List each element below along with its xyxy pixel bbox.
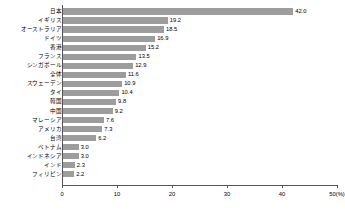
x-tick-label: 30 bbox=[224, 190, 230, 198]
bar-value-label: 18.5 bbox=[164, 25, 177, 34]
bar-row: 香港15.2 bbox=[0, 43, 339, 52]
bar bbox=[62, 126, 102, 132]
bar-track: 3.0 bbox=[62, 143, 339, 152]
bar-row: タイ10.4 bbox=[0, 88, 339, 97]
bar-track: 12.9 bbox=[62, 61, 339, 70]
bar-row: ドイツ16.9 bbox=[0, 34, 339, 43]
bar-row: 中国9.2 bbox=[0, 107, 339, 116]
bar bbox=[62, 153, 79, 159]
bar-value-label: 11.6 bbox=[126, 70, 139, 79]
bar-track: 10.9 bbox=[62, 79, 339, 88]
bar-row: シンガポール12.9 bbox=[0, 61, 339, 70]
category-label: 日本 bbox=[2, 7, 62, 16]
bar bbox=[62, 8, 293, 14]
bar-value-label: 6.2 bbox=[96, 134, 106, 143]
bar-track: 18.5 bbox=[62, 25, 339, 34]
bar bbox=[62, 135, 96, 141]
bar-value-label: 2.2 bbox=[74, 170, 84, 179]
category-label: インドネシア bbox=[2, 152, 62, 161]
category-label: シンガポール bbox=[2, 61, 62, 70]
bar-value-label: 42.0 bbox=[293, 7, 306, 16]
bar-track: 9.2 bbox=[62, 107, 339, 116]
bar-value-label: 15.2 bbox=[146, 43, 159, 52]
bar-value-label: 10.4 bbox=[119, 88, 132, 97]
bar-value-label: 9.8 bbox=[116, 97, 126, 106]
bar-track: 10.4 bbox=[62, 88, 339, 97]
category-label: アメリカ bbox=[2, 125, 62, 134]
bar-value-label: 7.3 bbox=[102, 125, 112, 134]
x-tick bbox=[282, 185, 283, 188]
x-tick-label: 20 bbox=[169, 190, 175, 198]
bar bbox=[62, 26, 164, 32]
category-label: 中国 bbox=[2, 107, 62, 116]
x-tick-label: 40 bbox=[279, 190, 285, 198]
bar-value-label: 9.2 bbox=[113, 107, 123, 116]
bar bbox=[62, 99, 116, 105]
bar-track: 42.0 bbox=[62, 7, 339, 16]
y-axis-line bbox=[62, 5, 63, 185]
x-tick-label: 50(%) bbox=[329, 190, 344, 198]
bar bbox=[62, 144, 79, 150]
bar-row: 韓国9.8 bbox=[0, 97, 339, 106]
bar-value-label: 19.2 bbox=[168, 16, 181, 25]
x-tick-label: 0 bbox=[60, 190, 63, 198]
bar bbox=[62, 63, 133, 69]
bar bbox=[62, 171, 74, 177]
bar-track: 9.8 bbox=[62, 97, 339, 106]
bar-row: インドネシア3.0 bbox=[0, 152, 339, 161]
category-label: 全体 bbox=[2, 70, 62, 79]
bar bbox=[62, 72, 126, 78]
category-label: 台湾 bbox=[2, 134, 62, 143]
bar bbox=[62, 162, 75, 168]
bar-row: インド2.3 bbox=[0, 161, 339, 170]
bar-value-label: 12.9 bbox=[133, 61, 146, 70]
bar-value-label: 10.9 bbox=[122, 79, 135, 88]
category-label: スウェーデン bbox=[2, 79, 62, 88]
bar-track: 7.3 bbox=[62, 125, 339, 134]
bar-track: 2.2 bbox=[62, 170, 339, 179]
bar-value-label: 7.6 bbox=[104, 116, 114, 125]
bar bbox=[62, 117, 104, 123]
bar-row: 日本42.0 bbox=[0, 7, 339, 16]
bar bbox=[62, 81, 122, 87]
bar-value-label: 2.3 bbox=[75, 161, 85, 170]
x-axis-line bbox=[62, 185, 338, 186]
bar bbox=[62, 90, 119, 96]
x-tick bbox=[117, 185, 118, 188]
bar-row: 台湾6.2 bbox=[0, 134, 339, 143]
bar-track: 3.0 bbox=[62, 152, 339, 161]
x-tick bbox=[227, 185, 228, 188]
category-label: ドイツ bbox=[2, 34, 62, 43]
bar-value-label: 16.9 bbox=[155, 34, 168, 43]
category-label: イギリス bbox=[2, 16, 62, 25]
bar-track: 19.2 bbox=[62, 16, 339, 25]
x-tick bbox=[337, 185, 338, 188]
x-tick-label: 10 bbox=[114, 190, 120, 198]
bar bbox=[62, 36, 155, 42]
bar-rows: 日本42.0イギリス19.2オーストラリア18.5ドイツ16.9香港15.2フラ… bbox=[0, 7, 339, 179]
bar-row: オーストラリア18.5 bbox=[0, 25, 339, 34]
bar-track: 7.6 bbox=[62, 116, 339, 125]
category-label: フィリピン bbox=[2, 170, 62, 179]
bar-value-label: 3.0 bbox=[79, 152, 89, 161]
bar-track: 15.2 bbox=[62, 43, 339, 52]
bar-track: 11.6 bbox=[62, 70, 339, 79]
bar bbox=[62, 108, 113, 114]
category-label: ベトナム bbox=[2, 143, 62, 152]
bar-row: イギリス19.2 bbox=[0, 16, 339, 25]
bar-value-label: 3.0 bbox=[79, 143, 89, 152]
bar-row: 全体11.6 bbox=[0, 70, 339, 79]
bar-row: アメリカ7.3 bbox=[0, 125, 339, 134]
bar-row: マレーシア7.6 bbox=[0, 116, 339, 125]
bar-track: 13.5 bbox=[62, 52, 339, 61]
bar bbox=[62, 54, 136, 60]
bar-track: 6.2 bbox=[62, 134, 339, 143]
category-label: インド bbox=[2, 161, 62, 170]
bar-row: ベトナム3.0 bbox=[0, 143, 339, 152]
bar-row: スウェーデン10.9 bbox=[0, 79, 339, 88]
bar-track: 16.9 bbox=[62, 34, 339, 43]
category-label: オーストラリア bbox=[2, 25, 62, 34]
x-tick bbox=[172, 185, 173, 188]
